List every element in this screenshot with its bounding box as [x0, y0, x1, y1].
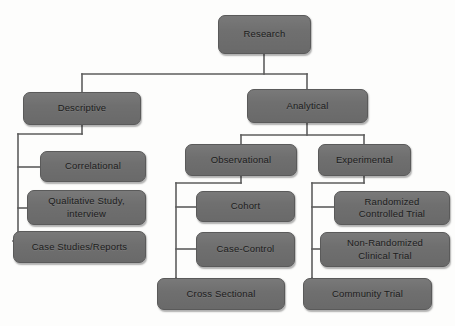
node-case-studies-reports[interactable]: Case Studies/Reports [13, 231, 146, 263]
node-randomized-controlled-trial[interactable]: Randomized Controlled Trial [334, 191, 450, 225]
node-randomized-controlled-trial-label: Randomized Controlled Trial [339, 196, 445, 220]
node-research[interactable]: Research [218, 15, 311, 54]
node-correlational-label: Correlational [45, 160, 141, 172]
node-non-randomized-clinical-trial[interactable]: Non-Randomized Clinical Trial [320, 232, 450, 267]
node-observational-label: Observational [190, 154, 292, 166]
node-non-rct-line1: Non-Randomized [325, 237, 445, 249]
node-qualitative-study-label: Qualitative Study, interview [32, 195, 141, 219]
node-analytical-label: Analytical [252, 100, 363, 112]
node-case-control[interactable]: Case-Control [196, 232, 295, 267]
node-rct-line2: Controlled Trial [339, 208, 445, 220]
node-community-trial[interactable]: Community Trial [303, 278, 432, 310]
node-non-randomized-clinical-trial-label: Non-Randomized Clinical Trial [325, 237, 445, 261]
node-descriptive-label: Descriptive [28, 102, 136, 114]
node-cohort[interactable]: Cohort [196, 191, 295, 222]
node-cross-sectional-label: Cross Sectional [162, 288, 280, 300]
node-cross-sectional[interactable]: Cross Sectional [157, 278, 285, 310]
node-qualitative-study-line2: interview [32, 208, 141, 220]
node-community-trial-label: Community Trial [308, 288, 427, 300]
node-case-studies-reports-label: Case Studies/Reports [18, 241, 141, 253]
node-research-label: Research [223, 28, 306, 40]
node-analytical[interactable]: Analytical [247, 89, 368, 123]
flowchart-canvas: Research Descriptive Analytical Correlat… [0, 0, 455, 326]
node-rct-line1: Randomized [339, 196, 445, 208]
node-observational[interactable]: Observational [185, 144, 297, 176]
node-case-control-label: Case-Control [201, 243, 290, 255]
node-non-rct-line2: Clinical Trial [325, 250, 445, 262]
node-cohort-label: Cohort [201, 200, 290, 212]
node-descriptive[interactable]: Descriptive [23, 92, 141, 125]
node-qualitative-study[interactable]: Qualitative Study, interview [27, 190, 146, 225]
node-experimental[interactable]: Experimental [318, 144, 411, 176]
node-correlational[interactable]: Correlational [40, 151, 146, 182]
node-experimental-label: Experimental [323, 154, 406, 166]
node-qualitative-study-line1: Qualitative Study, [32, 195, 141, 207]
